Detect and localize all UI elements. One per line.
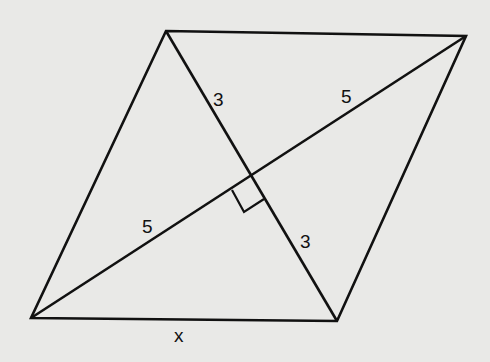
right-angle-marker xyxy=(232,190,264,212)
rhombus-diagram: 3 5 5 3 x xyxy=(0,0,490,362)
label-lower-3: 3 xyxy=(300,231,311,252)
label-upper-3: 3 xyxy=(213,89,224,110)
label-x: x xyxy=(174,325,184,346)
label-upper-5: 5 xyxy=(341,86,352,107)
label-lower-5: 5 xyxy=(142,216,153,237)
